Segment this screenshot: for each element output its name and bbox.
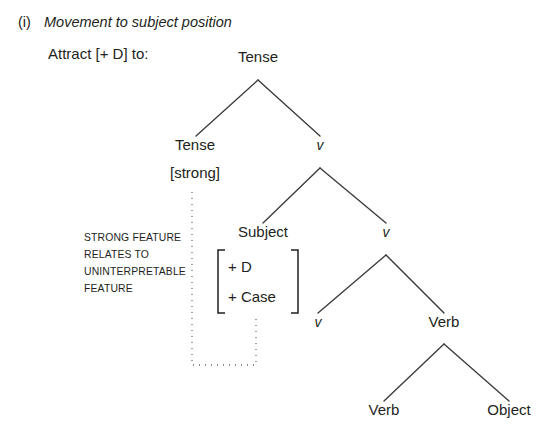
feature-matrix-right-bracket [291, 250, 298, 313]
tree-branch-verb-to-object [444, 344, 509, 401]
tree-branch-layer [196, 80, 509, 401]
tree-node-verb-lower: Verb [369, 401, 400, 418]
feature-dependency-layer [192, 192, 256, 365]
feature-matrix-row: + Case [228, 288, 276, 305]
feature-matrix-text-layer: + D+ Case [228, 258, 276, 305]
tree-branch-root-to-v-top [258, 80, 320, 136]
tree-branch-v-top-to-subject [263, 168, 320, 223]
annotation-text-layer: STRONG FEATURERELATES TOUNINTERPRETABLEF… [84, 232, 186, 294]
tree-node-v-low: v [315, 314, 323, 330]
tree-node-v-mid: v [383, 224, 391, 240]
feature-matrix-row: + D [228, 258, 252, 275]
annotation-line: STRONG FEATURE [84, 232, 181, 243]
annotation-line: RELATES TO [84, 249, 149, 260]
tree-branch-verb-to-verb [384, 344, 444, 401]
tree-node-tense-strong: [strong] [170, 164, 220, 181]
annotation-line: UNINTERPRETABLE [84, 266, 186, 277]
tree-branch-v-mid-to-verb [386, 255, 444, 313]
tree-node-layer: TenseTense[strong]vSubjectvvVerbVerbObje… [170, 48, 532, 418]
tree-branch-v-top-to-v-mid [320, 168, 386, 223]
tree-node-subject: Subject [238, 223, 289, 240]
tree-branch-v-mid-to-v-low [318, 255, 386, 313]
strong-to-case-link [192, 192, 256, 365]
syntax-tree: + D+ Case STRONG FEATURERELATES TOUNINTE… [0, 0, 560, 439]
tree-node-v-top: v [317, 137, 325, 153]
tree-node-root-tense: Tense [238, 48, 278, 65]
feature-matrix-left-bracket [218, 250, 225, 313]
tree-node-tense-spec: Tense [175, 136, 215, 153]
tree-branch-root-to-tense [196, 80, 258, 136]
tree-node-object: Object [487, 401, 531, 418]
figure-container: (i) Movement to subject position Attract… [0, 0, 560, 439]
annotation-line: FEATURE [84, 283, 133, 294]
tree-node-verb-upper: Verb [429, 313, 460, 330]
